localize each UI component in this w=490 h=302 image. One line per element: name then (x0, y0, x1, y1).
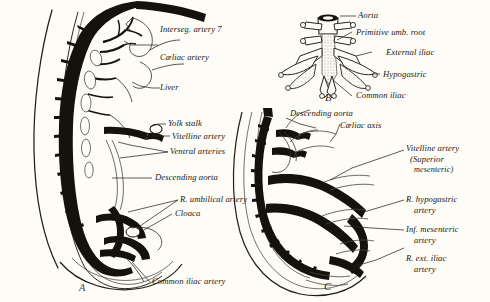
label-aorta-b: Aorta (358, 10, 378, 20)
label-primitive-umb-root-b: Primitive umb. root (356, 27, 425, 37)
label-r-ext-iliac-artery-c-line2: artery (414, 264, 436, 274)
body-wall-outer-contour-a (34, 10, 58, 268)
label-caeliac-axis-c: Cæliac axis (340, 120, 381, 130)
panel-letter-c: C (324, 281, 331, 292)
descending-aorta-shape-c (254, 116, 330, 280)
aorta-root-a (136, 1, 206, 22)
label-vitelline-artery-c-line2: (Superior (410, 154, 444, 164)
label-interseg-artery-a: Interseg. artery 7 (160, 24, 222, 34)
label-r-hypogastric-artery-c-line2: artery (414, 205, 436, 215)
aorta-root-c (263, 108, 273, 117)
yolk-stalk-vitelline-a (104, 125, 164, 143)
panel-letter-b: B (325, 92, 332, 103)
label-vitelline-artery-a: Vitelline artery (172, 131, 225, 141)
panel-letter-a: A (79, 282, 86, 293)
label-inf-mesenteric-artery-c: Inf. mesenteric (406, 224, 459, 234)
mid-vessel-outlines-a (106, 140, 123, 210)
label-common-iliac-artery-a: Common iliac artery (152, 276, 226, 286)
label-yolk-stalk-a: Yolk stalk (168, 118, 202, 128)
label-r-ext-iliac-artery-c: R. ext. iliac (406, 253, 446, 263)
label-common-iliac-b: Common iliac (356, 90, 406, 100)
aorta-lumen-inner-b (323, 16, 333, 19)
figure-plate: Interseg. artery 7 Cæliac artery Liver Y… (0, 0, 490, 302)
label-ventral-arteries-a: Ventral arteries (170, 146, 225, 156)
label-caeliac-artery-a: Cæliac artery (160, 52, 209, 62)
label-external-iliac-b: External iliac (386, 47, 434, 57)
label-liver-a: Liver (160, 82, 179, 92)
label-descending-aorta-a: Descending aorta (155, 172, 218, 182)
label-r-umbilical-artery-a: R. umbilical artery (180, 194, 247, 204)
label-vitelline-artery-c: Vitelline artery (406, 143, 459, 153)
label-r-hypogastric-artery-c: R. hypogastric (406, 194, 458, 204)
label-vitelline-artery-c-line3: mesenteric) (414, 165, 453, 175)
label-hypogastric-b: Hypogastric (383, 69, 427, 79)
umbilical-cloaca-complex-a (96, 206, 150, 262)
label-cloaca-a: Cloaca (175, 208, 200, 218)
label-descending-aorta-c: Descending aorta (290, 108, 353, 118)
label-inf-mesenteric-artery-c-line2: artery (414, 235, 436, 245)
panel-c-drawing (233, 108, 404, 296)
